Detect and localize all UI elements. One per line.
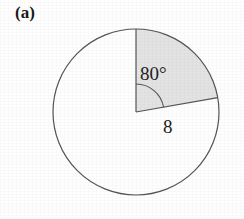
- radius-measure-label: 8: [163, 117, 173, 136]
- figure-container: (a) 80° 8: [0, 0, 244, 219]
- circle-sector-svg: [0, 0, 244, 219]
- angle-measure-label: 80°: [140, 64, 167, 83]
